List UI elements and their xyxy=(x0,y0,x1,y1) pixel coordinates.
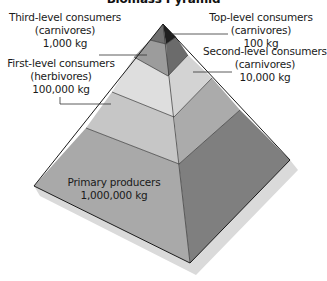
label-first-level: First-level consumers (herbivores) 100,0… xyxy=(6,57,116,96)
label-primary-producers: Primary producers 1,000,000 kg xyxy=(60,176,168,202)
label-second-level: Second-level consumers (carnivores) 10,0… xyxy=(203,45,327,84)
leader-first-level xyxy=(60,97,111,104)
label-third-level: Third-level consumers (carnivores) 1,000… xyxy=(2,11,128,50)
